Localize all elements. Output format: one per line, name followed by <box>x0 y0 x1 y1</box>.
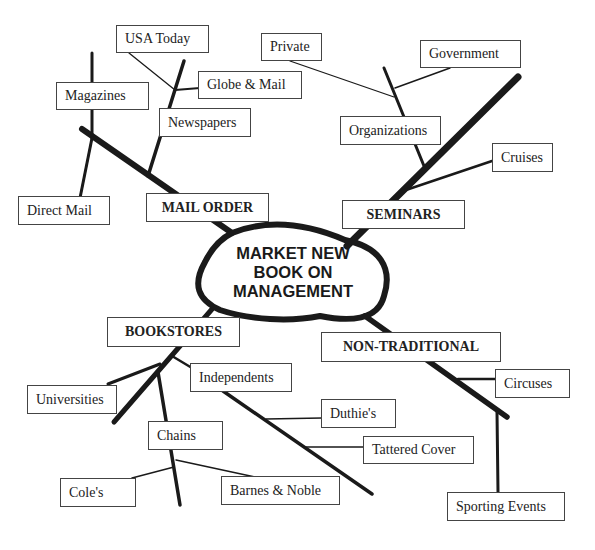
node-cruises: Cruises <box>492 143 553 172</box>
node-independents: Independents <box>190 363 292 392</box>
node-newspapers: Newspapers <box>159 108 251 137</box>
mind-map-canvas: MARKET NEW BOOK ON MANAGEMENT MAIL ORDER… <box>0 0 595 550</box>
node-chains: Chains <box>148 421 223 450</box>
node-direct-mail: Direct Mail <box>18 196 110 225</box>
node-magazines: Magazines <box>56 82 149 110</box>
central-topic: MARKET NEW BOOK ON MANAGEMENT <box>218 244 368 301</box>
branch-non-traditional: NON-TRADITIONAL <box>321 332 501 362</box>
node-duthies: Duthie's <box>321 399 396 428</box>
branch-mail-order: MAIL ORDER <box>146 193 269 222</box>
branch-bookstores: BOOKSTORES <box>107 317 240 347</box>
central-topic-line-3: MANAGEMENT <box>218 282 368 301</box>
node-government: Government <box>420 40 521 68</box>
node-universities: Universities <box>27 385 117 414</box>
node-organizations: Organizations <box>340 116 441 145</box>
node-globe-mail: Globe & Mail <box>198 71 302 99</box>
branch-seminars: SEMINARS <box>342 200 465 229</box>
node-sporting-events: Sporting Events <box>447 492 565 521</box>
node-tattered-cover: Tattered Cover <box>363 436 474 464</box>
node-barnes-noble: Barnes & Noble <box>221 476 340 505</box>
node-private: Private <box>261 33 322 61</box>
central-topic-line-1: MARKET NEW <box>218 244 368 263</box>
node-usa-today: USA Today <box>116 25 209 53</box>
node-circuses: Circuses <box>495 369 570 398</box>
node-coles: Cole's <box>60 478 136 507</box>
central-topic-line-2: BOOK ON <box>218 263 368 282</box>
